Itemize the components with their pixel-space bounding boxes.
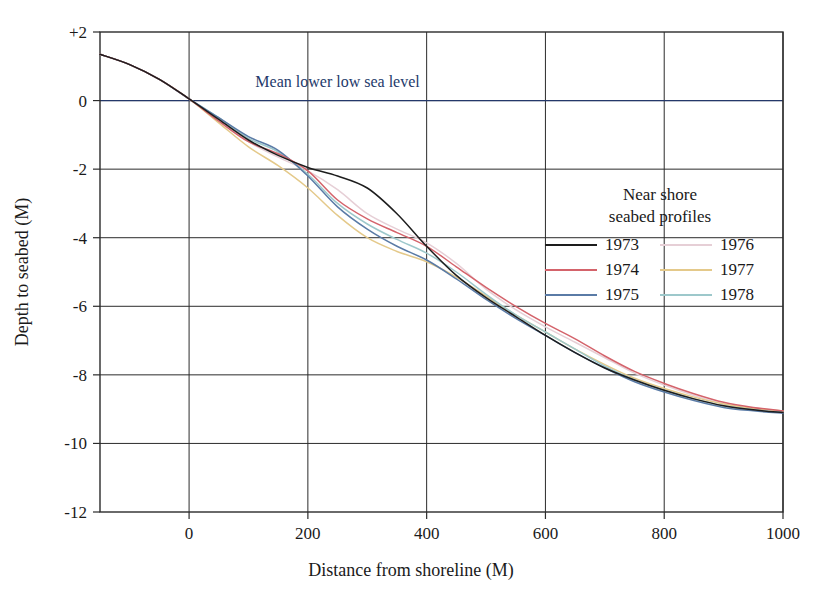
y-axis-title: Depth to seabed (M) bbox=[12, 198, 33, 346]
legend-title-line: seabed profiles bbox=[609, 207, 711, 226]
x-tick-label: 1000 bbox=[766, 524, 800, 543]
legend-label-1974: 1974 bbox=[605, 260, 640, 279]
y-tick-label: -12 bbox=[64, 503, 87, 522]
y-tick-label: -8 bbox=[73, 366, 87, 385]
legend-label-1977: 1977 bbox=[720, 260, 755, 279]
x-tick-label: 200 bbox=[295, 524, 321, 543]
legend-label-1976: 1976 bbox=[720, 235, 754, 254]
chart-annotations: Mean lower low sea level bbox=[255, 73, 420, 90]
legend-label-1978: 1978 bbox=[720, 285, 754, 304]
y-tick-label: -10 bbox=[64, 434, 87, 453]
y-tick-label: +2 bbox=[69, 23, 87, 42]
y-tick-label: -4 bbox=[73, 229, 88, 248]
legend-label-1973: 1973 bbox=[605, 235, 639, 254]
y-tick-label: -2 bbox=[73, 160, 87, 179]
annotation-mean-lower-low-sea-level: Mean lower low sea level bbox=[255, 73, 420, 90]
x-tick-label: 400 bbox=[414, 524, 440, 543]
y-tick-label: -6 bbox=[73, 297, 87, 316]
x-tick-label: 600 bbox=[533, 524, 559, 543]
legend-title-line: Near shore bbox=[623, 185, 697, 204]
chart-canvas: 02004006008001000 +20-2-4-6-8-10-12 Mean… bbox=[0, 0, 822, 602]
x-tick-label: 0 bbox=[185, 524, 194, 543]
seabed-profile-chart: 02004006008001000 +20-2-4-6-8-10-12 Mean… bbox=[0, 0, 822, 602]
legend-label-1975: 1975 bbox=[605, 285, 639, 304]
y-tick-label: 0 bbox=[79, 92, 88, 111]
x-axis-title: Distance from shoreline (M) bbox=[308, 560, 513, 581]
x-tick-label: 800 bbox=[651, 524, 677, 543]
